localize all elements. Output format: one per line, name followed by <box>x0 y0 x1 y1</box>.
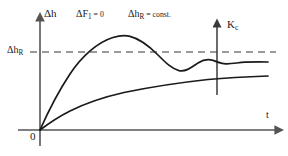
y-tick-subscript: R <box>18 49 23 57</box>
y-axis-label: Δh <box>44 8 57 19</box>
kc-label-subscript: c <box>235 23 239 32</box>
oscillatory-response-curve <box>40 36 268 130</box>
annotation-delta-hr-main: Δh <box>128 8 139 19</box>
overdamped-response-curve <box>40 76 268 130</box>
y-axis-tick-label-delta-hr: ΔhR <box>7 45 23 57</box>
response-plot <box>0 0 288 156</box>
kc-label: Kc <box>227 19 238 32</box>
x-axis-label: t <box>266 110 269 120</box>
annotation-delta-hr-const: ΔhR = const. <box>128 9 171 21</box>
kc-label-main: K <box>227 18 235 30</box>
annotation-delta-f1: ΔF1 = 0 <box>76 9 104 21</box>
annotation-delta-hr-value: = const. <box>144 10 171 19</box>
annotation-delta-f1-value: = 0 <box>92 10 104 19</box>
annotation-delta-f1-main: ΔF <box>76 8 88 19</box>
figure-container: Δh ΔF1 = 0 ΔhR = const. ΔhR Kc t 0 <box>0 0 288 156</box>
y-tick-main: Δh <box>7 44 18 55</box>
origin-label: 0 <box>30 131 36 142</box>
